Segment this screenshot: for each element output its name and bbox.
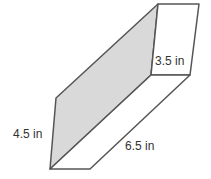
length-label: 6.5 in [125, 139, 154, 153]
width-label: 3.5 in [155, 54, 184, 68]
height-label: 4.5 in [13, 127, 42, 141]
prism-diagram [0, 0, 211, 179]
